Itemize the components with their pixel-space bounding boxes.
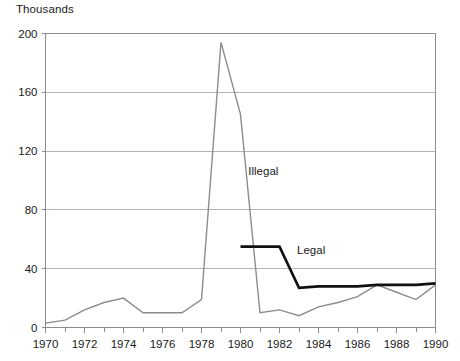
line-chart: 04080120160200 1970197219741976197819801…	[0, 0, 460, 361]
x-axis-label-1986: 1986	[345, 338, 371, 350]
x-axis-label-1978: 1978	[189, 338, 215, 350]
x-axis-label-1980: 1980	[228, 338, 254, 350]
legal-series-label: Legal	[297, 244, 325, 256]
chart-background	[0, 0, 460, 361]
y-axis-label-160: 160	[18, 86, 37, 98]
y-axis-label-80: 80	[25, 204, 38, 216]
y-axis-label-120: 120	[18, 145, 37, 157]
y-axis-label-40: 40	[25, 263, 38, 275]
x-axis-label-1970: 1970	[33, 338, 59, 350]
x-axis-label-1976: 1976	[150, 338, 176, 350]
x-axis-label-1974: 1974	[111, 338, 137, 350]
x-axis-tick-labels: 1970197219741976197819801982198419861988…	[33, 338, 449, 350]
x-axis-label-1990: 1990	[423, 338, 449, 350]
y-axis-label-200: 200	[18, 28, 37, 40]
x-axis-label-1984: 1984	[306, 338, 332, 350]
x-axis-label-1988: 1988	[384, 338, 410, 350]
x-axis-label-1982: 1982	[267, 338, 293, 350]
x-axis-label-1972: 1972	[72, 338, 98, 350]
chart-container: Thousands 04080120160200 197019721974197…	[0, 0, 460, 361]
illegal-series-label: Illegal	[248, 165, 278, 177]
y-axis-label-0: 0	[31, 322, 37, 334]
y-axis-unit-label: Thousands	[16, 3, 74, 15]
